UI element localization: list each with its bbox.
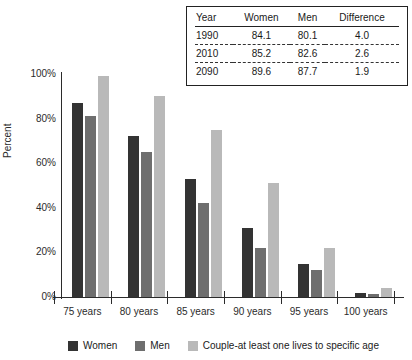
legend-item: Women — [68, 340, 117, 351]
x-tick-label: 85 years — [167, 306, 224, 317]
bar-women — [242, 228, 253, 297]
x-axis-tick — [281, 291, 282, 304]
bar-men — [311, 270, 322, 297]
x-tick-label: 90 years — [224, 306, 281, 317]
bar-group — [119, 74, 176, 297]
bar-men — [141, 152, 152, 297]
legend-swatch-icon — [188, 341, 198, 351]
y-tick-label: 40% — [20, 202, 56, 213]
legend-item: Couple-at least one lives to specific ag… — [188, 340, 379, 351]
x-axis-tick — [111, 291, 112, 304]
x-axis-tick — [394, 291, 395, 304]
bar-couple — [381, 288, 392, 297]
bar-group — [232, 74, 289, 297]
x-tick-label: 95 years — [281, 306, 338, 317]
y-tick-label: 100% — [20, 68, 56, 79]
y-axis-title: Percent — [2, 124, 13, 158]
bar-women — [355, 293, 366, 297]
y-tick-label: 60% — [20, 157, 56, 168]
x-axis-tick — [224, 291, 225, 304]
x-tick-label: 100 years — [337, 306, 394, 317]
y-tick-label: 80% — [20, 113, 56, 124]
bar-women — [185, 179, 196, 297]
bar-men — [85, 116, 96, 297]
bar-group — [62, 74, 119, 297]
x-axis-tick — [167, 291, 168, 304]
legend-item: Men — [135, 340, 169, 351]
bar-couple — [98, 76, 109, 297]
y-tick-label: 0% — [20, 291, 56, 302]
bar-women — [128, 136, 139, 297]
y-tick-label: 20% — [20, 246, 56, 257]
bar-couple — [268, 183, 279, 297]
x-axis-line — [53, 297, 404, 298]
plot-area — [62, 74, 402, 297]
x-tick-label: 75 years — [54, 306, 111, 317]
bar-group — [345, 74, 402, 297]
x-axis-tick — [54, 291, 55, 304]
legend-swatch-icon — [68, 341, 78, 351]
bar-women — [298, 264, 309, 297]
legend-label: Couple-at least one lives to specific ag… — [203, 340, 379, 351]
bar-men — [368, 294, 379, 297]
bar-men — [198, 203, 209, 297]
x-tick-label: 80 years — [111, 306, 168, 317]
bar-couple — [324, 248, 335, 297]
bar-couple — [211, 130, 222, 297]
bar-group — [289, 74, 346, 297]
bar-group — [175, 74, 232, 297]
bar-chart: Percent 100%80%60%40%20%0% 75 years80 ye… — [0, 0, 412, 360]
legend-label: Men — [150, 340, 169, 351]
bar-men — [255, 248, 266, 297]
x-axis-tick — [337, 291, 338, 304]
bar-couple — [154, 96, 165, 297]
bar-women — [72, 103, 83, 297]
legend-label: Women — [83, 340, 117, 351]
legend-swatch-icon — [135, 341, 145, 351]
chart-legend: WomenMenCouple-at least one lives to spe… — [68, 340, 379, 351]
